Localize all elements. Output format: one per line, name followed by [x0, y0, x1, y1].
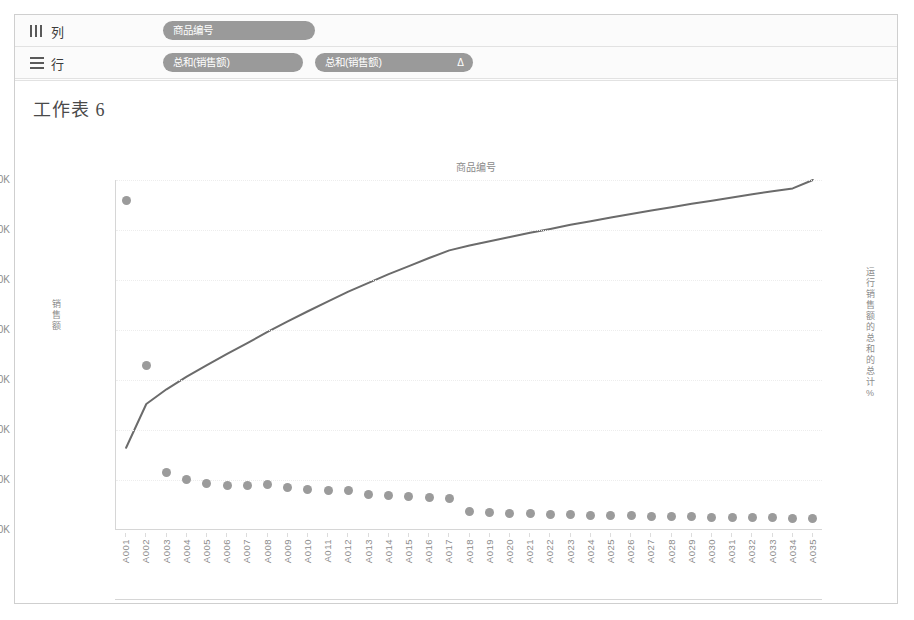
y-axis-left-tick: 40K [0, 324, 10, 335]
running-total-line[interactable] [126, 180, 813, 448]
x-axis-tick-label[interactable]: A006 [221, 539, 232, 563]
data-point-mark[interactable] [526, 509, 535, 518]
x-axis-tick-label[interactable]: A004 [181, 539, 192, 563]
x-axis-tick-label[interactable]: A008 [262, 539, 273, 563]
x-axis-tick-label[interactable]: A002 [140, 539, 151, 563]
data-point-mark[interactable] [142, 361, 151, 370]
data-point-mark[interactable] [324, 486, 333, 495]
x-axis-tick-label[interactable]: A015 [403, 539, 414, 563]
x-axis-tick-label[interactable]: A005 [201, 539, 212, 563]
data-point-mark[interactable] [566, 510, 575, 519]
x-axis-tick-label[interactable]: A027 [645, 539, 656, 563]
data-point-mark[interactable] [303, 485, 312, 494]
table-calculation-delta-icon: Δ [457, 53, 464, 72]
x-axis-tick-label[interactable]: A032 [746, 539, 757, 563]
x-axis-tick-label[interactable]: A001 [120, 539, 131, 563]
data-point-mark[interactable] [465, 507, 474, 516]
x-axis-tick-mark [307, 533, 308, 537]
data-point-mark[interactable] [122, 196, 131, 205]
data-point-mark[interactable] [647, 512, 656, 521]
x-axis-tick-label[interactable]: A011 [322, 539, 333, 562]
x-axis-tick-mark [731, 533, 732, 537]
x-axis-tick-label[interactable]: A023 [565, 539, 576, 563]
data-point-mark[interactable] [728, 513, 737, 522]
data-point-mark[interactable] [263, 480, 272, 489]
columns-shelf[interactable]: 列 商品编号 [15, 15, 897, 47]
data-point-mark[interactable] [243, 481, 252, 490]
data-point-mark[interactable] [768, 513, 777, 522]
pareto-line-series [116, 180, 823, 530]
x-axis-tick-label[interactable]: A019 [484, 539, 495, 563]
data-point-mark[interactable] [344, 486, 353, 495]
pill-rows-sales-running-total-label: 总和(销售额) [325, 56, 382, 68]
x-axis-tick-label[interactable]: A020 [504, 539, 515, 563]
x-axis-tick-mark [751, 533, 752, 537]
x-axis-tick-label[interactable]: A035 [807, 539, 818, 563]
y-axis-left-title: 销售额 [49, 299, 63, 332]
plot-area: 70K60K50K40K30K20K10K0K100%80%60%40%20%0… [115, 180, 822, 530]
x-axis-tick-mark [772, 533, 773, 537]
x-axis-tick-label[interactable]: A014 [383, 539, 394, 563]
x-axis-tick-mark [125, 533, 126, 537]
data-point-mark[interactable] [667, 512, 676, 521]
gridline [116, 430, 822, 431]
data-point-mark[interactable] [445, 494, 454, 503]
x-axis-tick-label[interactable]: A034 [787, 539, 798, 563]
x-axis-tick-label[interactable]: A022 [544, 539, 555, 563]
x-axis-tick-label[interactable]: A033 [767, 539, 778, 563]
data-point-mark[interactable] [162, 468, 171, 477]
data-point-mark[interactable] [425, 493, 434, 502]
data-point-mark[interactable] [505, 509, 514, 518]
x-axis-tick-mark [226, 533, 227, 537]
rows-shelf-label: 行 [51, 54, 65, 73]
x-axis-tick-label[interactable]: A012 [342, 539, 353, 563]
x-axis-tick-label[interactable]: A029 [686, 539, 697, 563]
y-axis-left-tick: 50K [0, 274, 10, 285]
x-axis-tick-mark [529, 533, 530, 537]
gridline [116, 330, 822, 331]
data-point-mark[interactable] [748, 513, 757, 522]
x-axis-tick-label[interactable]: A030 [706, 539, 717, 563]
x-axis-tick-mark [711, 533, 712, 537]
x-axis-tick-label[interactable]: A003 [161, 539, 172, 563]
x-axis-tick-label[interactable]: A017 [443, 539, 454, 563]
gridline [116, 380, 822, 381]
y-axis-left-tick: 70K [0, 174, 10, 185]
x-axis-tick-mark [691, 533, 692, 537]
data-point-mark[interactable] [627, 511, 636, 520]
rows-shelf[interactable]: 行 总和(销售额) 总和(销售额) Δ [15, 47, 897, 79]
data-point-mark[interactable] [788, 514, 797, 523]
x-axis-tick-mark [549, 533, 550, 537]
pill-columns-product-id[interactable]: 商品编号 [163, 21, 315, 40]
x-axis-tick-label[interactable]: A021 [524, 539, 535, 563]
x-axis-tick-label[interactable]: A009 [282, 539, 293, 563]
pill-rows-sales-sum[interactable]: 总和(销售额) [163, 53, 303, 72]
data-point-mark[interactable] [182, 475, 191, 484]
y-axis-left-tick: 0K [0, 524, 10, 535]
data-point-mark[interactable] [223, 481, 232, 490]
x-axis-tick-mark [489, 533, 490, 537]
x-axis-tick-label[interactable]: A025 [605, 539, 616, 563]
data-point-mark[interactable] [364, 490, 373, 499]
x-axis-tick-label[interactable]: A013 [363, 539, 374, 563]
gridline [116, 280, 822, 281]
x-axis-tick-label[interactable]: A010 [302, 539, 313, 563]
x-axis-tick-label[interactable]: A024 [585, 539, 596, 563]
pill-rows-sales-running-total[interactable]: 总和(销售额) Δ [315, 53, 473, 72]
x-axis-tick-mark [792, 533, 793, 537]
data-point-mark[interactable] [707, 513, 716, 522]
x-axis-tick-mark [166, 533, 167, 537]
data-point-mark[interactable] [586, 511, 595, 520]
gridline [116, 480, 822, 481]
gridline [116, 230, 822, 231]
x-axis-tick-label[interactable]: A031 [726, 539, 737, 563]
x-axis-tick-label[interactable]: A018 [464, 539, 475, 563]
x-axis-tick-label[interactable]: A016 [423, 539, 434, 563]
columns-shelf-label: 列 [51, 22, 65, 41]
data-point-mark[interactable] [546, 510, 555, 519]
x-axis-tick-label[interactable]: A007 [241, 539, 252, 563]
page-title: 工作表 6 [33, 95, 106, 121]
x-axis-tick-label[interactable]: A026 [625, 539, 636, 563]
x-axis-tick-label[interactable]: A028 [666, 539, 677, 563]
x-axis-rule [115, 599, 822, 600]
